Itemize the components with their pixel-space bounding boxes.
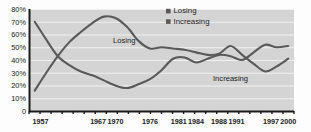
chart-canvas: 80%70%60%50%40%30%20%10%0 19571967197019…	[0, 0, 311, 132]
y-tick-label-7: 10%	[11, 94, 26, 103]
legend-label-losing: Losing	[174, 6, 197, 15]
y-tick-label-1: 70%	[11, 18, 26, 27]
y-tick-label-0: 80%	[11, 5, 26, 14]
x-tick-label-3: 1976	[142, 117, 158, 126]
x-tick-label-5: 1984	[188, 117, 204, 126]
y-tick-label-3: 50%	[11, 43, 26, 52]
x-tick-label-1: 1967	[90, 117, 106, 126]
x-axis-tick-labels: 1957196719701976198119841988199119972000	[33, 117, 297, 126]
series-annotation-increasing: Increasing	[213, 74, 248, 83]
x-tick-label-2: 1970	[107, 117, 123, 126]
y-tick-label-8: 0	[22, 107, 26, 116]
y-tick-label-5: 30%	[11, 69, 26, 78]
legend-label-increasing: Increasing	[174, 17, 210, 26]
legend-swatch-increasing	[166, 19, 171, 24]
y-axis-tick-labels: 80%70%60%50%40%30%20%10%0	[11, 5, 26, 116]
x-tick-label-6: 1988	[211, 117, 227, 126]
x-tick-label-9: 2000	[280, 117, 296, 126]
x-tick-label-4: 1981	[171, 117, 187, 126]
y-tick-label-2: 60%	[11, 30, 26, 39]
chart-legend: LosingIncreasing	[166, 6, 209, 26]
line-chart-figure: 80%70%60%50%40%30%20%10%0 19571967197019…	[0, 0, 311, 132]
series-annotation-losing: Losing	[113, 36, 135, 45]
x-tick-label-7: 1991	[228, 117, 244, 126]
legend-swatch-losing	[166, 9, 171, 14]
x-tick-label-0: 1957	[33, 117, 49, 126]
x-tick-label-8: 1997	[263, 117, 279, 126]
y-tick-label-6: 20%	[11, 81, 26, 90]
y-tick-label-4: 40%	[11, 56, 26, 65]
